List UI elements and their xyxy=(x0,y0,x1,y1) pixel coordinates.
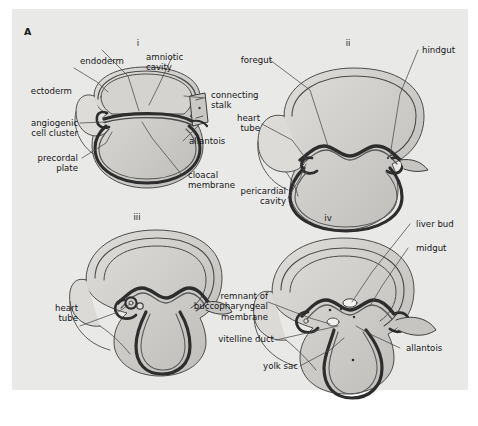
label-yolk-sac: yolk sac xyxy=(232,361,298,371)
subpanel-iv-art xyxy=(254,238,436,398)
figure-caption xyxy=(8,411,478,425)
label-remnant-buccopharyngeal-membrane: remnant of buccopharyngeal membrane xyxy=(176,291,268,322)
label-connecting-stalk: connecting stalk xyxy=(211,90,281,111)
label-midgut: midgut xyxy=(416,243,472,253)
label-endoderm: endoderm xyxy=(52,56,152,66)
label-ectoderm: ectoderm xyxy=(6,86,72,96)
subpanel-numeral-iii: iii xyxy=(127,212,147,222)
embryo-folding-figure: A i ii iii iv endoderm amniotic cavity e… xyxy=(0,0,478,426)
label-foregut: foregut xyxy=(210,55,272,65)
label-heart-tube-iii: heart tube xyxy=(22,303,78,324)
subpanel-numeral-ii: ii xyxy=(338,38,358,48)
label-vitelline-duct: vitelline duct xyxy=(178,334,274,344)
label-liver-bud: liver bud xyxy=(416,219,476,229)
subpanel-numeral-i: i xyxy=(128,38,148,48)
label-amniotic-cavity: amniotic cavity xyxy=(146,52,206,73)
subpanel-numeral-iv: iv xyxy=(318,213,338,223)
label-heart-tube-ii: heart tube xyxy=(212,113,260,134)
label-hindgut: hindgut xyxy=(422,45,476,55)
label-allantois-i: allantois xyxy=(189,136,249,146)
label-precordal-plate: precordal plate xyxy=(4,153,78,174)
label-pericardial-cavity: pericardial cavity xyxy=(216,186,286,207)
label-allantois-iv: allantois xyxy=(406,343,466,353)
label-angiogenic-cell-cluster: angiogenic cell cluster xyxy=(0,118,78,139)
panel-letter-A: A xyxy=(24,26,32,37)
